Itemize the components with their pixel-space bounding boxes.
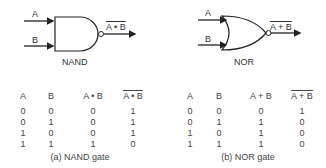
nand-cell: 0: [78, 106, 108, 116]
nor-cell: 0: [175, 106, 205, 116]
nor-cell: 0: [287, 128, 317, 138]
nand-cell: 0: [36, 128, 66, 138]
nand-cell: 1: [118, 106, 148, 116]
nor-cell: 1: [246, 117, 276, 127]
nand-cell: 0: [36, 106, 66, 116]
nand-header-b: B: [36, 91, 66, 101]
nand-cell: 0: [8, 117, 38, 127]
nor-cell: 1: [204, 117, 234, 127]
nor-output-label: A + B: [270, 22, 292, 32]
nor-cell: 0: [204, 128, 234, 138]
nand-cell: 1: [118, 128, 148, 138]
nor-cell: 1: [246, 128, 276, 138]
nand-cell: 1: [36, 117, 66, 127]
nor-cell: 0: [287, 117, 317, 127]
nor-cell: 0: [175, 117, 205, 127]
nand-output-label: A • B: [106, 22, 126, 32]
nor-header-or: A + B: [246, 91, 276, 101]
nand-header-and: A • B: [78, 91, 108, 101]
nor-cell: 1: [175, 139, 205, 149]
nor-cell: 1: [287, 106, 317, 116]
nand-gate-label: NAND: [62, 57, 88, 67]
nor-input-b-label: B: [205, 34, 211, 44]
nor-cell: 0: [204, 106, 234, 116]
nand-input-b-label: B: [32, 35, 38, 45]
nor-caption: (b) NOR gate: [208, 152, 288, 162]
nor-cell: 1: [175, 128, 205, 138]
nand-cell: 1: [36, 139, 66, 149]
nand-header-nand: A • B: [118, 91, 148, 101]
nand-cell: 0: [8, 106, 38, 116]
nand-caption: (a) NAND gate: [40, 152, 120, 162]
nand-cell: 0: [78, 128, 108, 138]
nand-cell: 0: [78, 117, 108, 127]
nor-header-a: A: [175, 91, 205, 101]
nand-cell: 1: [8, 139, 38, 149]
nand-cell: 0: [118, 139, 148, 149]
nand-cell: 1: [78, 139, 108, 149]
nand-header-a: A: [8, 91, 38, 101]
nor-input-a-label: A: [205, 8, 211, 18]
nor-cell: 1: [204, 139, 234, 149]
nor-header-nor: A + B: [287, 91, 317, 101]
nor-cell: 1: [246, 139, 276, 149]
nand-cell: 1: [8, 128, 38, 138]
nor-cell: 0: [287, 139, 317, 149]
nand-cell: 1: [118, 117, 148, 127]
nor-gate-label: NOR: [234, 57, 254, 67]
nor-cell: 0: [246, 106, 276, 116]
nor-header-b: B: [204, 91, 234, 101]
nand-input-a-label: A: [32, 9, 38, 19]
